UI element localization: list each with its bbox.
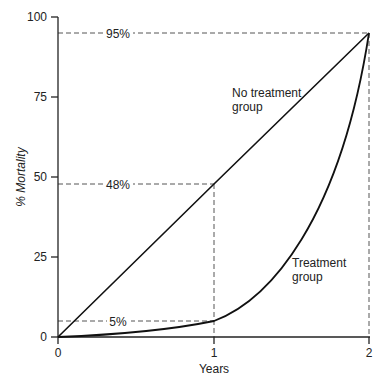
label-no-treatment-line1: No treatment [232, 86, 302, 100]
annotation-5: 5% [109, 315, 127, 329]
y-tick-100: 100 [27, 10, 47, 24]
label-treatment-line1: Treatment [292, 256, 347, 270]
annotation-48: 48% [106, 178, 130, 192]
x-tick-labels: 0 1 2 [55, 346, 373, 360]
label-no-treatment: No treatment group [232, 86, 305, 114]
mortality-chart: 95% 48% 5% 100 75 50 25 0 0 1 2 Years % … [0, 0, 387, 386]
label-no-treatment-line2: group [232, 100, 263, 114]
y-tick-25: 25 [34, 250, 48, 264]
x-tick-0: 0 [55, 346, 62, 360]
y-tick-75: 75 [34, 90, 48, 104]
axes [51, 17, 370, 344]
y-tick-50: 50 [34, 170, 48, 184]
annotation-95: 95% [106, 27, 130, 41]
x-tick-2: 2 [366, 346, 373, 360]
label-treatment-line2: group [292, 270, 323, 284]
x-axis-label: Years [199, 362, 229, 376]
label-treatment: Treatment group [292, 256, 350, 284]
y-tick-0: 0 [40, 330, 47, 344]
x-tick-1: 1 [211, 346, 218, 360]
y-axis-label: % Mortality [14, 146, 28, 206]
y-tick-labels: 100 75 50 25 0 [27, 10, 47, 344]
